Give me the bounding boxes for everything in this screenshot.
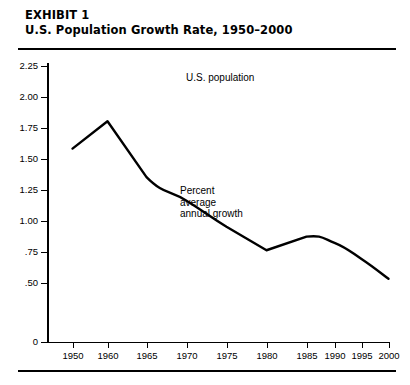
annotation-line-1: Percent (180, 185, 214, 196)
annotation-percent-average-annual-growth: Percentaverageannual growth (180, 185, 243, 220)
annotation-line-2: average (180, 197, 216, 208)
annotation-us-population: U.S. population (186, 72, 254, 84)
exhibit-figure: EXHIBIT 1 U.S. Population Growth Rate, 1… (0, 0, 410, 385)
chart-plot-area: 2.25 2.00 1.75 1.50 1.25 1.00 .75 .50 (0, 0, 410, 385)
annotation-line-3: annual growth (180, 208, 243, 219)
